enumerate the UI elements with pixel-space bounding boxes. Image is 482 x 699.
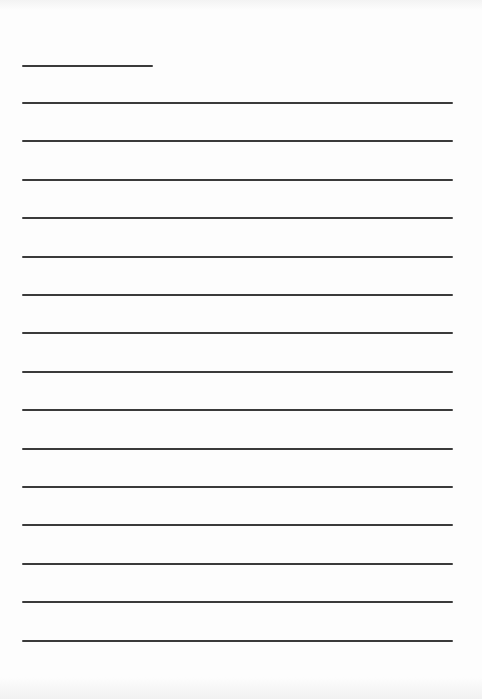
ruled-line (22, 179, 453, 181)
ruled-line (22, 256, 453, 258)
scan-edge-bottom (0, 677, 482, 699)
ruled-line (22, 294, 453, 296)
short-title-rule (22, 65, 153, 67)
ruled-line (22, 140, 453, 142)
ruled-line (22, 601, 453, 603)
ruled-line (22, 217, 453, 219)
ruled-line (22, 563, 453, 565)
ruled-line (22, 524, 453, 526)
ruled-line (22, 102, 453, 104)
ruled-line (22, 332, 453, 334)
ruled-line (22, 371, 453, 373)
scan-edge-top (0, 0, 482, 10)
ruled-line (22, 409, 453, 411)
ruled-line (22, 486, 453, 488)
lined-paper-page (0, 0, 482, 699)
ruled-line (22, 448, 453, 450)
ruled-line (22, 640, 453, 642)
